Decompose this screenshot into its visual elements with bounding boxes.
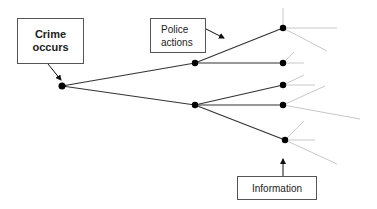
- node-mid-upper: [192, 60, 198, 66]
- information-box: Information: [237, 176, 317, 200]
- crime-arrow: [48, 64, 61, 80]
- node-leaf-4: [280, 102, 286, 108]
- node-leaf-5: [282, 137, 288, 143]
- police-label-line2: actions: [161, 36, 193, 49]
- crime-occurs-box: Crime occurs: [17, 18, 84, 64]
- root-node: [59, 83, 66, 90]
- node-leaf-2: [280, 60, 286, 66]
- police-arrow: [206, 29, 224, 38]
- police-label-line1: Police: [161, 23, 193, 36]
- crime-label-line2: occurs: [32, 41, 68, 54]
- information-label: Information: [252, 183, 302, 194]
- node-leaf-3: [280, 82, 286, 88]
- faded-branches: [283, 8, 360, 164]
- crime-label-line1: Crime: [32, 28, 68, 41]
- node-mid-lower: [192, 102, 198, 108]
- police-actions-box: Police actions: [150, 18, 206, 53]
- node-leaf-1: [280, 25, 286, 31]
